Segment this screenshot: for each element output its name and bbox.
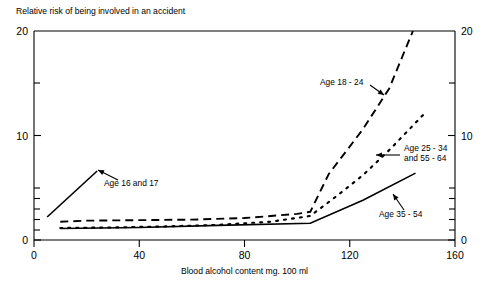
annotation-arrow-age-35-54	[393, 194, 399, 200]
series-layer	[47, 31, 423, 229]
x-axis-label-160: 160	[446, 249, 464, 261]
y-axis-right-label-0: 0	[461, 234, 467, 246]
x-axis-title: Blood alcohol content mg. 100 ml	[181, 266, 308, 276]
x-axis-label-0: 0	[31, 249, 37, 261]
y-axis-left-label-0: 0	[22, 234, 28, 246]
annotation-label-age-25-34-and-55-64-line2: and 55 - 64	[404, 153, 447, 163]
y-axis-right-label-20: 20	[461, 25, 473, 37]
chart-title: Relative risk of being involved in an ac…	[16, 6, 186, 16]
annotation-layer: Age 16 and 17Age 18 - 24Age 25 - 34and 5…	[98, 77, 448, 219]
annotation-arrow-age-25-34-and-55-64	[376, 152, 382, 157]
chart-container: Relative risk of being involved in an ac…	[0, 0, 486, 281]
series-line-age-25-34-and-55-64	[60, 115, 423, 228]
x-axis-label-80: 80	[239, 249, 251, 261]
y-axis-left-label-20: 20	[16, 25, 28, 37]
y-axis-right-label-10: 10	[461, 130, 473, 142]
accident-risk-line-chart: Relative risk of being involved in an ac…	[0, 0, 486, 281]
annotation-label-age-16-and-17: Age 16 and 17	[104, 178, 159, 188]
annotation-arrow-age-18-24	[378, 89, 384, 95]
y-axis-left-label-10: 10	[16, 130, 28, 142]
x-axis-label-40: 40	[133, 249, 145, 261]
x-axis-label-120: 120	[341, 249, 359, 261]
annotation-label-age-35-54: Age 35 - 54	[379, 209, 423, 219]
annotation-label-age-18-24: Age 18 - 24	[320, 77, 364, 87]
annotation-label-age-25-34-and-55-64: Age 25 - 34	[404, 143, 448, 153]
series-line-age-18-24	[60, 31, 413, 222]
series-line-age-16-and-17	[47, 171, 97, 217]
